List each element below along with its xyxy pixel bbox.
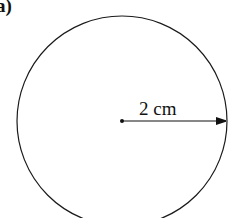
radius-label: 2 cm	[139, 98, 177, 119]
circle-diagram: 2 cm	[0, 0, 233, 218]
circle-outline	[17, 16, 227, 218]
diagram-canvas: a) 2 cm	[0, 0, 233, 218]
